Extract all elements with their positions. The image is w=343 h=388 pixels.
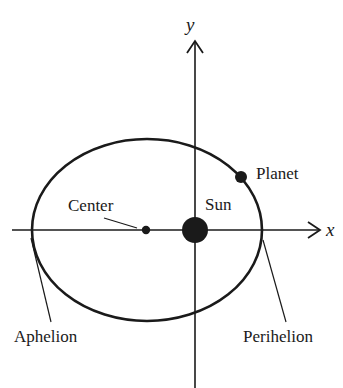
center-dot-icon [142, 226, 150, 234]
planet-label: Planet [256, 164, 299, 183]
sun-icon [182, 217, 208, 243]
planet-icon [235, 171, 247, 183]
perihelion-label: Perihelion [243, 327, 313, 346]
center-label: Center [68, 196, 114, 215]
aphelion-leader-line [31, 238, 51, 322]
orbit-diagram: x y Center Sun Planet Aphelion Perihelio… [0, 0, 343, 388]
perihelion-leader-line [263, 240, 286, 322]
sun-label: Sun [205, 195, 232, 214]
x-axis [12, 222, 320, 238]
y-axis [187, 41, 203, 388]
center-leader-line [104, 218, 137, 228]
y-axis-label: y [184, 14, 195, 35]
x-axis-label: x [325, 219, 335, 240]
aphelion-label: Aphelion [14, 327, 78, 346]
